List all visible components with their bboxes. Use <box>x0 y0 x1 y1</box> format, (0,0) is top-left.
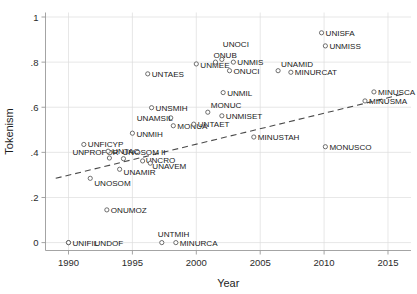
data-point[interactable]: UNMEE <box>194 61 230 70</box>
data-point-label: MINURCAT <box>295 68 337 77</box>
data-point-label: ONUCI <box>234 67 260 76</box>
data-point[interactable]: MINUSTAH <box>252 133 300 142</box>
data-point-label: UNTAES <box>152 70 185 79</box>
data-point-label: UNFICYP <box>88 140 124 149</box>
y-tick-label: .8 <box>31 57 39 68</box>
data-point-marker[interactable] <box>213 60 217 64</box>
data-point-marker[interactable] <box>206 110 210 114</box>
data-point-marker[interactable] <box>105 208 109 212</box>
scatter-plot-figure: 0.2.4.6.81199019952000200520102015 UNIFI… <box>0 0 417 294</box>
data-point[interactable]: UNTAES <box>146 70 185 79</box>
data-point-label: ONUMOZ <box>111 206 147 215</box>
data-points-group: UNIFILUNDOFONUMOZUNTMIHMINURCAUNOSOMUNAM… <box>66 29 415 248</box>
data-point-marker[interactable] <box>192 122 196 126</box>
data-point[interactable]: UNTAET <box>192 120 230 129</box>
data-point-marker[interactable] <box>220 114 224 118</box>
data-point-marker[interactable] <box>221 90 225 94</box>
data-point-label: UNAMSIL <box>137 114 173 123</box>
data-point[interactable]: MINUSCA <box>372 88 416 97</box>
data-point-marker[interactable] <box>194 62 198 66</box>
data-point-marker[interactable] <box>174 241 178 245</box>
data-point[interactable]: MINURCA <box>174 239 218 248</box>
data-point-label: UNSMIH <box>156 104 188 113</box>
data-point-label: UNOSOM <box>94 179 131 188</box>
data-point-marker[interactable] <box>130 131 134 135</box>
data-point-label: MINUSTAH <box>258 133 300 142</box>
y-tick-label: .2 <box>31 192 39 203</box>
y-tick-label: 1 <box>33 12 38 23</box>
data-point[interactable]: ONUMOZ <box>105 206 147 215</box>
data-point[interactable]: MINURCAT <box>289 68 337 77</box>
data-point[interactable]: UNMIH <box>130 130 163 139</box>
plot-canvas: 0.2.4.6.81199019952000200520102015 UNIFI… <box>0 0 417 294</box>
x-tick-label: 1990 <box>58 257 79 268</box>
data-point-label: UNTMIH <box>158 230 190 239</box>
data-point[interactable]: UNAMSIL <box>137 114 173 123</box>
data-point[interactable]: UNMISS <box>323 42 361 51</box>
data-point-label: UNMISET <box>226 112 262 121</box>
data-point-label: UNTAET <box>198 120 230 129</box>
data-point-marker[interactable] <box>66 241 70 245</box>
data-point-label: UNAMIR <box>124 168 156 177</box>
data-point-marker[interactable] <box>106 149 110 153</box>
data-point-label: UNDOF <box>95 239 124 248</box>
data-point-label: MINUSCA <box>378 88 416 97</box>
data-point-marker[interactable] <box>323 145 327 149</box>
x-tick-label: 2010 <box>314 257 335 268</box>
data-point-marker[interactable] <box>289 70 293 74</box>
data-point-label: MONUC <box>211 101 242 110</box>
data-point-label: MINURCA <box>180 239 218 248</box>
data-point[interactable]: MONUSCO <box>323 143 371 152</box>
data-point[interactable]: MINUSMA <box>363 97 408 106</box>
x-tick-label: 1995 <box>122 257 143 268</box>
data-point[interactable]: UNISFA <box>319 29 355 38</box>
data-point-marker[interactable] <box>220 57 224 61</box>
y-tick-label: .4 <box>31 147 39 158</box>
data-point[interactable]: UNMISET <box>220 112 263 121</box>
data-point[interactable]: UNAMIR <box>118 167 156 177</box>
data-point[interactable]: UNOSOM <box>88 176 131 188</box>
y-tick-label: 0 <box>33 237 38 248</box>
y-tick-label: .6 <box>31 102 39 113</box>
data-point-marker[interactable] <box>146 72 150 76</box>
data-point-marker[interactable] <box>372 90 376 94</box>
x-tick-label: 2015 <box>377 257 398 268</box>
data-point-marker[interactable] <box>252 135 256 139</box>
data-point-label: UNMISS <box>329 42 361 51</box>
data-point[interactable]: UNAVEM <box>148 161 186 171</box>
data-point[interactable]: UNFICYP <box>82 140 124 149</box>
data-point-marker[interactable] <box>319 31 323 35</box>
data-point-marker[interactable] <box>276 69 280 73</box>
data-point-marker[interactable] <box>121 157 125 161</box>
y-axis-title: Tokenism <box>3 108 15 154</box>
data-point-marker[interactable] <box>149 106 153 110</box>
data-point-label: UNOCI <box>223 40 249 49</box>
data-point-label: MINUSMA <box>369 97 408 106</box>
data-point-marker[interactable] <box>88 176 92 180</box>
x-tick-label: 2000 <box>186 257 207 268</box>
data-point-label: UNAVEM <box>152 162 186 171</box>
data-point[interactable]: UNMIL <box>221 89 253 98</box>
data-point-marker[interactable] <box>231 60 235 64</box>
data-point[interactable]: ONUCI <box>227 67 259 76</box>
data-point-label: UNMIH <box>136 130 163 139</box>
data-point-label: ONUB <box>213 51 236 60</box>
data-point-marker[interactable] <box>323 44 327 48</box>
data-point-marker[interactable] <box>227 69 231 73</box>
data-point-label: UNISFA <box>326 29 356 38</box>
data-point[interactable]: UNSMIH <box>149 104 187 113</box>
data-point-marker[interactable] <box>141 159 145 163</box>
data-point-label: UNMIL <box>227 89 253 98</box>
data-point-marker[interactable] <box>118 167 122 171</box>
data-point-marker[interactable] <box>82 142 86 146</box>
data-point-marker[interactable] <box>363 99 367 103</box>
data-point-marker[interactable] <box>171 124 175 128</box>
x-tick-label: 2005 <box>250 257 271 268</box>
x-axis-title: Year <box>217 277 240 289</box>
data-point-label: MONUSCO <box>329 143 371 152</box>
data-point-marker[interactable] <box>160 241 164 245</box>
